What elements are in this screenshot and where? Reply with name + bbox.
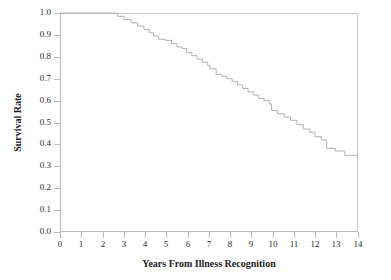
plot-area (60, 13, 358, 232)
x-axis-tick (230, 232, 231, 238)
y-axis-tick-label: 0.9 (11, 30, 51, 39)
y-axis-tick-label: 0.0 (11, 227, 51, 236)
x-axis-tick (358, 232, 359, 238)
x-axis-title: Years From Illness Recognition (60, 258, 358, 269)
x-axis-tick-label: 5 (154, 240, 178, 249)
x-axis-tick (294, 232, 295, 238)
x-axis-tick-label: 13 (324, 240, 348, 249)
x-axis-tick (81, 232, 82, 238)
y-axis-tick-label: 1.0 (11, 8, 51, 17)
y-axis-tick (54, 123, 60, 124)
plot-top-border (60, 13, 358, 14)
x-axis-tick (166, 232, 167, 238)
y-axis-tick (54, 57, 60, 58)
x-axis-tick (60, 232, 61, 238)
y-axis-tick (54, 144, 60, 145)
x-axis-tick (336, 232, 337, 238)
x-axis-tick-label: 9 (239, 240, 263, 249)
y-axis-tick-label: 0.1 (11, 205, 51, 214)
y-axis-tick (54, 166, 60, 167)
y-axis-tick (54, 188, 60, 189)
survival-chart-figure: 0.00.10.20.30.40.50.60.70.80.91.0 012345… (0, 0, 391, 280)
plot-right-border (357, 13, 358, 232)
x-axis-tick-label: 14 (346, 240, 370, 249)
x-axis-tick (209, 232, 210, 238)
x-axis-tick (273, 232, 274, 238)
x-axis-tick (251, 232, 252, 238)
x-axis-tick-label: 1 (69, 240, 93, 249)
y-axis-tick (54, 101, 60, 102)
y-axis-tick-label: 0.8 (11, 52, 51, 61)
y-axis-title: Survival Rate (12, 63, 23, 183)
x-axis-tick (124, 232, 125, 238)
y-axis-tick (54, 79, 60, 80)
x-axis-tick (188, 232, 189, 238)
x-axis-tick (315, 232, 316, 238)
y-axis-tick-label: 0.2 (11, 183, 51, 192)
y-axis-tick (54, 13, 60, 14)
x-axis-tick (103, 232, 104, 238)
y-axis-tick (54, 210, 60, 211)
x-axis-tick (145, 232, 146, 238)
y-axis-tick (54, 35, 60, 36)
